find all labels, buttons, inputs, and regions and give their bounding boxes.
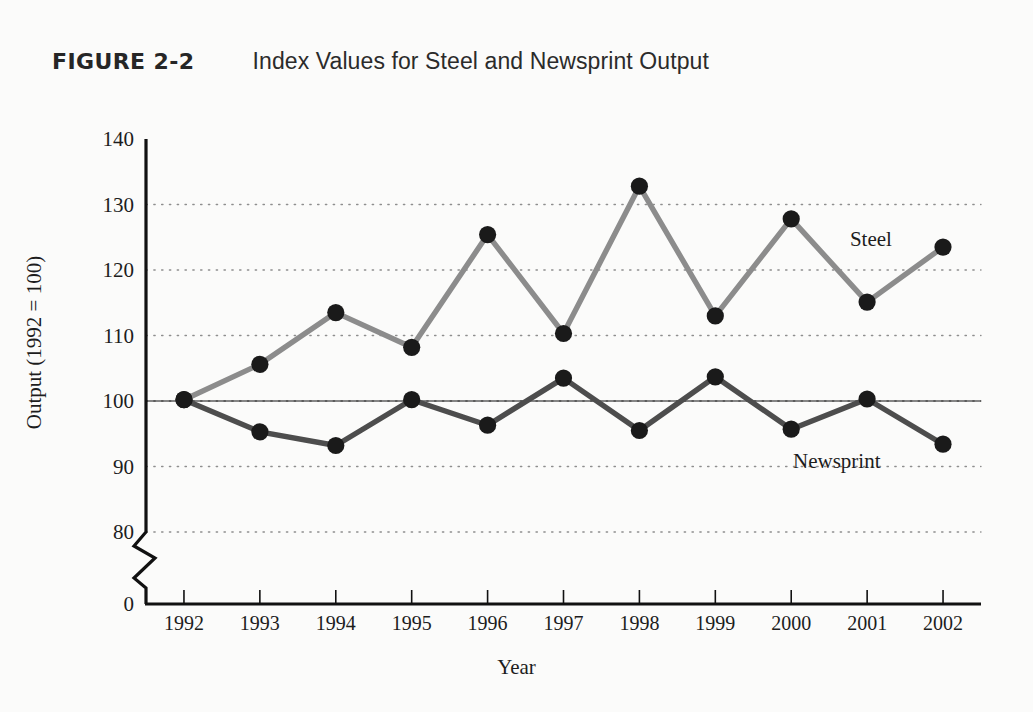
x-axis-tick-2002: 2002	[898, 612, 988, 635]
data-point-newsprint-2000	[783, 421, 800, 438]
series-label-newsprint: Newsprint	[793, 449, 881, 474]
data-point-steel-2001	[859, 294, 876, 311]
data-point-steel-2002	[934, 239, 951, 256]
data-point-steel-1997	[555, 325, 572, 342]
data-point-steel-1995	[403, 339, 420, 356]
x-axis-title: Year	[0, 655, 1033, 680]
data-point-newsprint-2001	[859, 390, 876, 407]
line-chart	[0, 0, 1033, 712]
data-point-newsprint-2002	[934, 436, 951, 453]
data-point-newsprint-1994	[327, 437, 344, 454]
data-point-newsprint-1998	[631, 422, 648, 439]
data-point-newsprint-1999	[707, 368, 724, 385]
data-point-steel-1993	[251, 356, 268, 373]
data-point-newsprint-1997	[555, 370, 572, 387]
data-point-steel-1996	[479, 226, 496, 243]
data-point-newsprint-1995	[403, 391, 420, 408]
data-point-newsprint-1992	[175, 391, 192, 408]
series-line-steel	[184, 186, 943, 400]
data-point-newsprint-1996	[479, 417, 496, 434]
y-axis-tick-110: 110	[64, 323, 134, 348]
data-point-steel-2000	[783, 210, 800, 227]
y-axis-tick-120: 120	[64, 258, 134, 283]
y-axis-tick-0: 0	[64, 592, 134, 617]
y-axis-title: Output (1992 = 100)	[22, 213, 47, 473]
data-point-steel-1994	[327, 304, 344, 321]
y-axis-tick-100: 100	[64, 389, 134, 414]
data-point-steel-1999	[707, 307, 724, 324]
data-point-steel-1998	[631, 178, 648, 195]
chart-plot-area: Output (1992 = 100) Year 140130120110100…	[0, 0, 1033, 712]
y-axis-tick-130: 130	[64, 192, 134, 217]
figure-page: FIGURE 2-2 Index Values for Steel and Ne…	[0, 0, 1033, 712]
y-axis-tick-90: 90	[64, 454, 134, 479]
y-axis-tick-140: 140	[64, 127, 134, 152]
series-label-steel: Steel	[850, 227, 892, 252]
y-axis-tick-80: 80	[64, 520, 134, 545]
series-line-newsprint	[184, 377, 943, 446]
data-point-newsprint-1993	[251, 423, 268, 440]
